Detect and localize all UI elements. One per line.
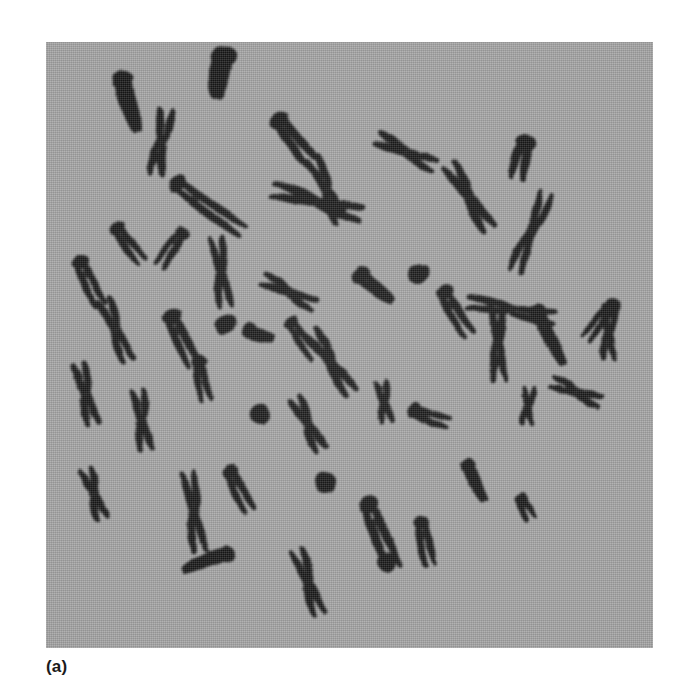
chromosome	[371, 379, 396, 426]
chromosome	[205, 234, 236, 310]
chromosome	[284, 392, 332, 456]
chromosome	[177, 469, 210, 555]
chromosome	[348, 262, 399, 309]
chromosome	[146, 106, 176, 178]
chromosome	[67, 359, 103, 428]
chromosome	[287, 545, 331, 619]
chromosome	[128, 387, 157, 453]
chromosome	[300, 324, 361, 400]
chromosome	[505, 187, 556, 277]
chromosome	[512, 491, 539, 524]
chromosome	[240, 320, 277, 347]
chromosome	[257, 270, 321, 314]
chromosome-layer	[46, 42, 653, 648]
chromosome	[219, 462, 258, 517]
chromosome	[266, 107, 323, 172]
chromosome	[152, 223, 192, 272]
chromosome	[432, 281, 479, 341]
chromosome	[599, 303, 619, 361]
chromosome	[410, 514, 438, 569]
chromosome-arm	[599, 332, 608, 361]
chromosome	[268, 180, 366, 225]
chromosome	[109, 67, 149, 135]
chromosome	[204, 44, 239, 101]
chromosome	[371, 129, 441, 175]
chromosome	[211, 309, 241, 338]
chromosome	[404, 259, 434, 288]
chromosome	[458, 456, 492, 506]
chromosome	[439, 158, 500, 236]
chromosome	[189, 354, 216, 404]
figure-caption: (a)	[46, 658, 67, 675]
chromosome	[405, 399, 454, 432]
chromosome	[94, 294, 139, 366]
chromosome	[69, 252, 110, 312]
figure-root: (a)	[0, 0, 691, 694]
chromosome	[519, 386, 538, 427]
micrograph-panel	[46, 42, 653, 648]
chromosome-arm	[607, 333, 617, 362]
chromosome	[506, 132, 539, 183]
chromosome-spread-svg	[46, 42, 653, 648]
chromosome-arm	[497, 342, 509, 383]
chromosome	[106, 217, 151, 268]
chromosome	[546, 373, 605, 411]
chromosome	[310, 466, 342, 499]
chromosome	[76, 464, 113, 523]
chromosome	[246, 400, 274, 429]
